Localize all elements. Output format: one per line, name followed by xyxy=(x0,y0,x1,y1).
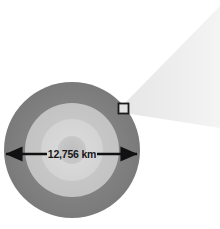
diameter-measurement-label: 12,756 km xyxy=(48,148,96,160)
magnifier-cone xyxy=(124,6,220,128)
figure-root: 12,756 km xyxy=(0,0,220,229)
zoom-region-square[interactable] xyxy=(119,104,129,114)
zoom-region-square-fill xyxy=(119,104,129,114)
earth-diagram-canvas: 12,756 km xyxy=(0,0,220,229)
